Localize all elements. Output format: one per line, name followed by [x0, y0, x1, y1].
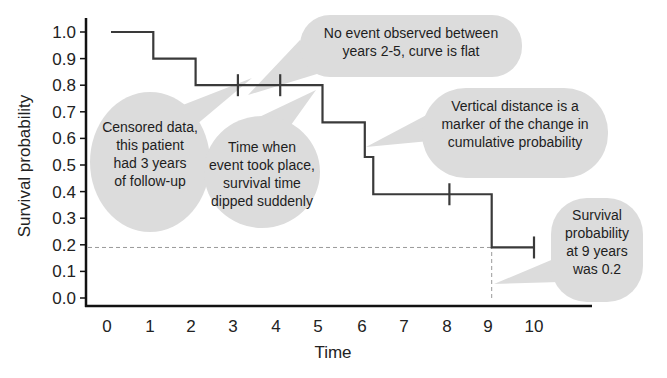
callout-line: survival time — [223, 175, 301, 191]
y-tick-label: 1.0 — [52, 23, 76, 42]
callout-text-vertical-distance: Vertical distance is amarker of the chan… — [441, 98, 588, 150]
callout-line: was 0.2 — [572, 261, 621, 277]
x-tick-label: 0 — [102, 317, 111, 336]
y-tick-label: 0.7 — [52, 103, 76, 122]
y-tick-label: 0.0 — [52, 289, 76, 308]
y-tick-label: 0.3 — [52, 209, 76, 228]
callout-line: years 2-5, curve is flat — [343, 43, 480, 59]
callout-line: this patient — [116, 137, 184, 153]
callout-line: Censored data, — [102, 119, 198, 135]
x-tick-label: 4 — [271, 317, 280, 336]
x-axis-title: Time — [314, 343, 351, 362]
callout-line: cumulative probability — [448, 134, 583, 150]
callout-line: marker of the change in — [441, 116, 588, 132]
kaplan-meier-chart: 0.00.10.20.30.40.50.60.70.80.91.00123456… — [0, 0, 667, 378]
x-tick-label: 1 — [145, 317, 154, 336]
y-tick-label: 0.2 — [52, 236, 76, 255]
x-tick-label: 10 — [525, 317, 544, 336]
y-axis-title: Survival probability — [15, 94, 34, 237]
y-tick-label: 0.6 — [52, 129, 76, 148]
callout-line: event took place, — [209, 157, 315, 173]
y-tick-label: 0.9 — [52, 50, 76, 69]
x-tick-label: 7 — [399, 317, 408, 336]
callout-line: Survival — [572, 207, 622, 223]
x-tick-label: 8 — [442, 317, 451, 336]
callout-line: probability — [565, 225, 629, 241]
callout-line: had 3 years — [113, 155, 186, 171]
x-tick-label: 3 — [228, 317, 237, 336]
reference-lines — [88, 247, 492, 298]
callout-line: Time when — [228, 139, 296, 155]
y-tick-label: 0.4 — [52, 183, 76, 202]
callout-line: Vertical distance is a — [451, 98, 579, 114]
callout-line: No event observed between — [324, 25, 498, 41]
callout-line: at 9 years — [566, 243, 627, 259]
x-tick-label: 2 — [186, 317, 195, 336]
y-tick-label: 0.8 — [52, 76, 76, 95]
callout-pointer — [494, 258, 560, 284]
callout-line: of follow-up — [114, 173, 186, 189]
y-tick-label: 0.1 — [52, 262, 76, 281]
callout-line: dipped suddenly — [211, 193, 313, 209]
y-tick-label: 0.5 — [52, 156, 76, 175]
x-tick-label: 5 — [313, 317, 322, 336]
x-tick-label: 6 — [357, 317, 366, 336]
x-tick-label: 9 — [483, 317, 492, 336]
